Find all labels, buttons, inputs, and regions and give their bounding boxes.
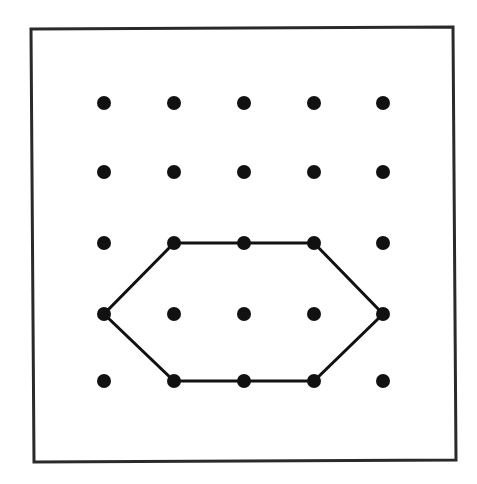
grid-dot [97,236,111,250]
grid-dot [97,96,111,110]
grid-dot [97,165,111,179]
grid-dot [167,165,181,179]
geoboard-diagram [0,0,477,484]
grid-dot [97,374,111,388]
grid-dot [307,307,321,321]
grid-dot [167,96,181,110]
grid-dot [237,96,251,110]
grid-dot [167,307,181,321]
grid-dot [237,307,251,321]
grid-dot [307,165,321,179]
geoboard-canvas [0,0,477,484]
grid-dot [376,236,390,250]
grid-dot [237,165,251,179]
grid-dot [376,96,390,110]
grid-dot [376,374,390,388]
grid-dot [307,96,321,110]
grid-dot [376,165,390,179]
